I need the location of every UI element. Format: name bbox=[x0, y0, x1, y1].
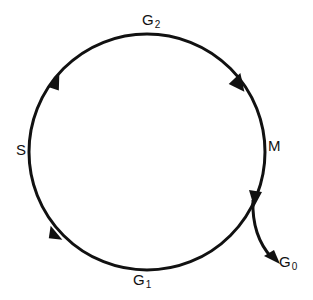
label-g2: G2 bbox=[142, 12, 160, 27]
label-m: M bbox=[268, 138, 281, 153]
cell-cycle-diagram bbox=[0, 0, 313, 300]
arrow-m-to-g1-icon bbox=[249, 190, 262, 207]
cycle-circle bbox=[29, 34, 265, 270]
label-g1: G1 bbox=[133, 272, 151, 287]
label-s: S bbox=[16, 142, 26, 157]
g0-exit-branch bbox=[253, 200, 272, 258]
label-g0: G0 bbox=[279, 254, 297, 269]
